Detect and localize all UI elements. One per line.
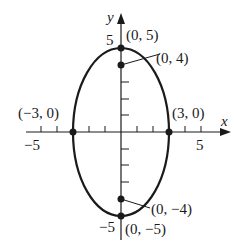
ellipse-diagram: y x 5 −5 −5 5 (0, 5) (0, 4) (−3, 0) (3, …: [0, 0, 238, 246]
point-vertex-top: [118, 45, 125, 52]
y-axis-label: y: [105, 9, 114, 25]
point-focus-bottom: [118, 196, 125, 203]
label-covertex-right: (3, 0): [172, 105, 205, 122]
x-axis-arrow-icon: [220, 128, 231, 136]
y-axis-arrow-icon: [117, 13, 125, 24]
label-focus-top: (0, 4): [156, 50, 189, 67]
point-vertex-bottom: [118, 213, 125, 220]
label-vertex-top: (0, 5): [126, 27, 159, 44]
y-tick-label-neg5: −5: [99, 219, 115, 235]
label-vertex-bottom: (0, −5): [125, 221, 166, 238]
x-axis: [26, 126, 231, 136]
point-focus-top: [118, 62, 125, 69]
diagram-canvas: y x 5 −5 −5 5 (0, 5) (0, 4) (−3, 0) (3, …: [0, 0, 238, 246]
y-tick-label-5: 5: [106, 32, 114, 48]
x-axis-label: x: [220, 113, 228, 129]
point-covertex-left: [70, 129, 77, 136]
label-covertex-left: (−3, 0): [18, 105, 59, 122]
label-focus-bottom: (0, −4): [151, 201, 192, 218]
x-tick-label-5: 5: [196, 137, 204, 153]
point-covertex-right: [166, 129, 173, 136]
x-tick-label-neg5: −5: [24, 137, 40, 153]
